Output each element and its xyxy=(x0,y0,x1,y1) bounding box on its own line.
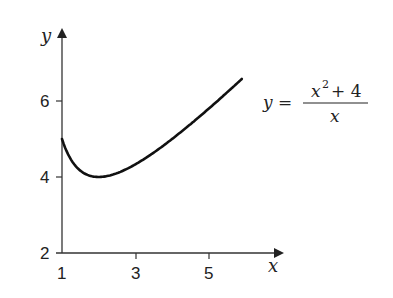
numerator-rest: + 4 xyxy=(331,81,361,101)
y-tick-label-4: 4 xyxy=(40,168,49,187)
y-tick-label-2: 2 xyxy=(40,244,49,263)
equation-lhs: y xyxy=(262,92,273,112)
numerator-exponent: 2 xyxy=(322,78,329,91)
x-tick-label-5: 5 xyxy=(204,264,213,283)
y-axis-label: y xyxy=(40,25,52,46)
numerator-var: x xyxy=(311,81,321,101)
x-axis-label: x xyxy=(268,255,278,276)
equation-label: y = x 2 + 4 x xyxy=(262,78,368,126)
x-tick-label-3: 3 xyxy=(131,264,140,283)
y-tick-label-6: 6 xyxy=(40,92,49,111)
function-curve xyxy=(62,79,242,177)
chart-canvas: 6 4 2 1 3 5 y x y = x 2 + 4 x xyxy=(0,0,393,298)
x-tick-label-1: 1 xyxy=(57,264,66,283)
denominator: x xyxy=(330,106,340,126)
equation-equals: = xyxy=(278,92,292,112)
